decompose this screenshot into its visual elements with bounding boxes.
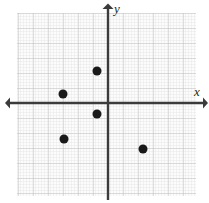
y-axis-arrow-up	[103, 4, 114, 10]
y-axis-label: y	[114, 2, 120, 15]
data-point	[60, 135, 69, 144]
coordinate-plane-svg	[0, 0, 209, 203]
data-point	[59, 90, 68, 99]
grid-area	[17, 13, 196, 196]
x-axis-arrow-right	[203, 98, 208, 109]
data-point	[93, 67, 102, 76]
x-axis-label: x	[194, 85, 200, 98]
data-point	[93, 110, 102, 119]
grid-major-lines	[17, 13, 196, 196]
data-point	[139, 145, 148, 154]
x-axis-arrow-left	[5, 98, 10, 109]
coordinate-plane-figure: x y	[0, 0, 209, 203]
